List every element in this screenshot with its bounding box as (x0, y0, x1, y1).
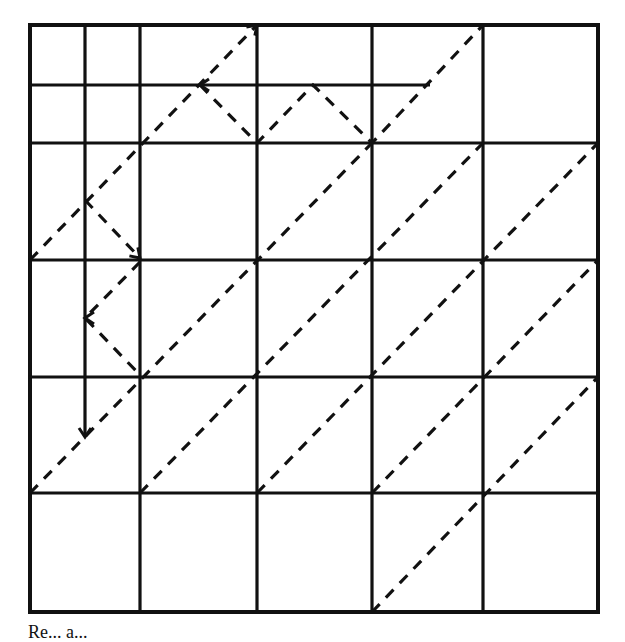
dashed-path-e (30, 143, 372, 493)
dashed-path-g (257, 143, 598, 493)
dashed-path-b (85, 200, 140, 258)
figure-caption: Re... a... (28, 622, 87, 642)
grid-lines (30, 25, 598, 612)
reflection-paths (30, 25, 598, 612)
dashed-path-c (85, 262, 140, 375)
dashed-path-f (140, 143, 483, 493)
arrowheads (79, 21, 261, 437)
